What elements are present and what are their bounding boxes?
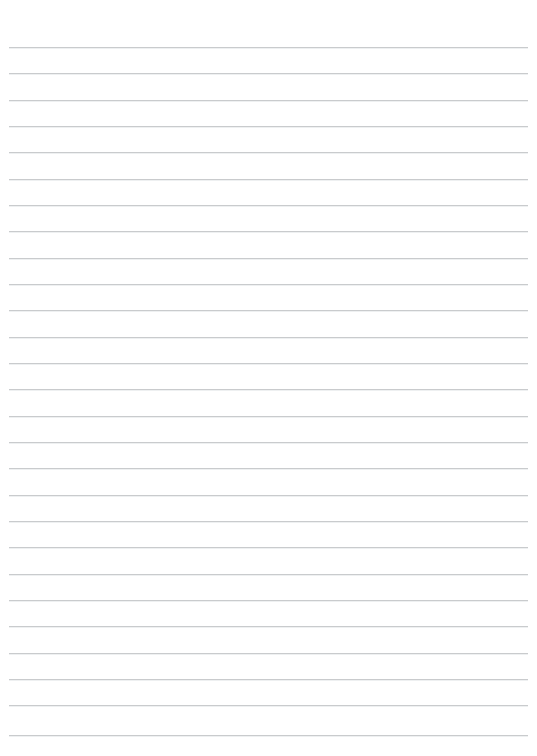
rule-line (9, 284, 528, 285)
rule-line (9, 442, 528, 443)
rule-line (9, 735, 528, 736)
rule-line (9, 47, 528, 48)
rule-line (9, 468, 528, 469)
rule-line (9, 337, 528, 338)
rule-line (9, 152, 528, 153)
rule-line (9, 495, 528, 496)
rule-line (9, 600, 528, 601)
rule-line (9, 231, 528, 232)
lined-paper-page (0, 0, 537, 756)
rule-line (9, 626, 528, 627)
rule-line (9, 100, 528, 101)
rule-line (9, 679, 528, 680)
rule-line (9, 653, 528, 654)
rule-line (9, 416, 528, 417)
rule-line (9, 126, 528, 127)
rule-line (9, 574, 528, 575)
rule-line (9, 205, 528, 206)
rule-line (9, 310, 528, 311)
rule-line (9, 521, 528, 522)
rule-line (9, 179, 528, 180)
rule-line (9, 363, 528, 364)
rule-line (9, 389, 528, 390)
rule-line (9, 705, 528, 706)
rule-line (9, 258, 528, 259)
rule-line (9, 73, 528, 74)
ruled-lines (0, 0, 537, 756)
rule-line (9, 547, 528, 548)
